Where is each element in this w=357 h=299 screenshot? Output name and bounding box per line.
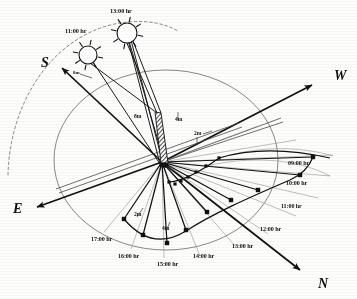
dimension-label-4m-lower: 4m [162, 226, 169, 232]
shadow-tip-marker [165, 241, 169, 245]
shadow-tip-marker [141, 233, 145, 237]
dimension-label-2m-upper: 2m [194, 131, 201, 137]
hour-label-1600: 16:00 hr [118, 253, 139, 259]
dimension-label-8m-south: 8m [73, 70, 79, 75]
shadow-tip-marker [298, 173, 302, 177]
hour-label-1700: 17:00 hr [91, 236, 112, 242]
compass-label-north: N [318, 277, 328, 291]
shadow-tip-marker [167, 180, 170, 183]
hour-label-1500: 15:00 hr [157, 261, 178, 267]
hour-label-1300: 13:00 hr [232, 243, 253, 249]
compass-label-west: W [334, 69, 346, 83]
shadow-tip-marker [205, 210, 209, 214]
hour-label-1400: 14:00 hr [193, 253, 214, 259]
sun-label-1100: 11:00 hr [65, 28, 86, 34]
shadow-tip-marker [311, 155, 315, 159]
sun-label-1300: 13:00 hr [110, 8, 132, 14]
mast-base [160, 162, 169, 167]
dimension-label-4m-upper: 4m [175, 117, 182, 123]
shadow-tip-marker [204, 164, 207, 167]
shadow-tip-marker [256, 188, 260, 192]
compass-label-east: E [13, 202, 22, 216]
hour-label-1200: 12:00 hr [260, 226, 281, 232]
shadow-tip-marker [122, 217, 126, 221]
shadow-tip-marker [179, 179, 182, 182]
shadow-ray-1300 [162, 162, 207, 212]
hour-label-0900: 09:00 hr [288, 160, 309, 166]
figure-canvas: S W E N 11:00 hr 13:00 hr 09:00 hr 10:00… [0, 0, 357, 299]
shadow-tip-marker [217, 156, 220, 159]
dimension-label-8m-upper: 8m [134, 114, 141, 120]
shadow-tip-marker [184, 228, 188, 232]
shadow-ray-1700 [124, 162, 162, 219]
dimension-label-2m-lower: 2m [134, 212, 141, 218]
shadow-tip-marker [229, 198, 233, 202]
shadow-tip-markers-outer [122, 155, 315, 245]
hour-label-1100: 11:00 hr [281, 203, 302, 209]
shadow-tip-marker [194, 170, 197, 173]
shadow-tip-marker [186, 175, 189, 178]
hour-label-1000: 10:00 hr [286, 180, 307, 186]
shadow-ray-1600 [143, 162, 162, 235]
compass-label-south: S [41, 56, 49, 70]
sun-path-diagram [0, 0, 357, 299]
shadow-tip-marker [173, 182, 176, 185]
shadow-rays [124, 157, 313, 243]
construction-rays [104, 126, 333, 258]
sun-icon [73, 40, 102, 69]
